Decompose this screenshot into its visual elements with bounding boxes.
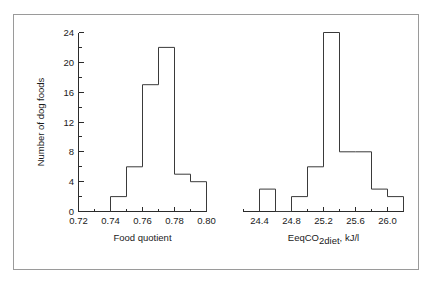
histogram-panels: 0 4 8 12 16 20 24 Number of dog foods [0,0,434,286]
left-y-major-ticks [79,33,84,212]
left-y-tick-labels: 0 4 8 12 16 20 24 [63,27,74,217]
right-x-tick-label: 26.0 [378,215,397,226]
right-x-axis-title-pre: EeqCO [288,232,319,243]
right-panel: 24.4 24.8 25.2 25.6 26.0 EeqCO2diet, kJ/… [244,33,404,246]
right-x-major-ticks [260,207,388,212]
right-x-tick-label: 24.4 [250,215,269,226]
left-histogram-bars [111,47,207,211]
right-x-tick-label: 24.8 [282,215,301,226]
left-x-tick-labels: 0.72 0.74 0.76 0.78 0.80 [69,215,216,226]
left-x-tick-label: 0.80 [197,215,216,226]
left-x-tick-label: 0.78 [165,215,184,226]
left-y-tick-label: 4 [69,176,74,187]
left-x-tick-label: 0.74 [101,215,120,226]
left-y-tick-label: 12 [63,117,74,128]
right-x-tick-label: 25.6 [346,215,365,226]
left-panel: 0 4 8 12 16 20 24 Number of dog foods [35,27,216,243]
left-y-tick-label: 20 [63,57,74,68]
left-y-tick-label: 8 [69,146,74,157]
right-x-tick-label: 25.2 [314,215,333,226]
right-x-axis-title-post: , kJ/l [340,232,360,243]
right-x-axis-title: EeqCO2diet, kJ/l [288,232,359,246]
right-histogram-bars [260,33,404,212]
left-x-major-ticks [79,207,207,212]
right-x-tick-labels: 24.4 24.8 25.2 25.6 26.0 [250,215,397,226]
left-y-tick-label: 16 [63,87,74,98]
left-x-axis-title: Food quotient [113,232,171,243]
figure-container: 0 4 8 12 16 20 24 Number of dog foods [0,0,434,286]
left-x-tick-label: 0.76 [133,215,152,226]
right-x-axis-title-sub: 2diet [319,235,340,246]
left-y-tick-label: 24 [63,27,74,38]
left-x-tick-label: 0.72 [69,215,88,226]
left-y-axis-title: Number of dog foods [35,77,46,166]
